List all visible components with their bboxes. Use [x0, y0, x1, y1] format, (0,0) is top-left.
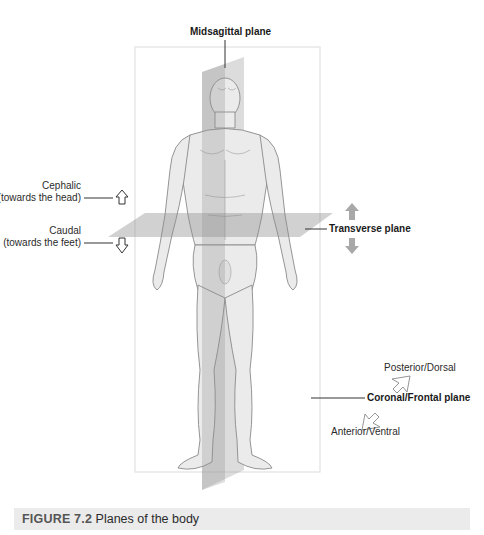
coronal-label: Coronal/Frontal plane — [367, 392, 470, 404]
cephalic-sublabel: (towards the head) — [0, 192, 81, 204]
figure-number: FIGURE 7.2 — [22, 512, 92, 526]
caudal-sublabel: (towards the feet) — [3, 237, 81, 249]
cephalic-label: Cephalic — [42, 180, 81, 192]
cephalic-up-arrow-icon — [116, 190, 128, 204]
transverse-plane — [108, 213, 333, 237]
midsagittal-label: Midsagittal plane — [190, 26, 271, 38]
anterior-label: Anterior/Ventral — [331, 426, 400, 438]
transverse-up-arrow-icon — [345, 203, 359, 220]
midsagittal-plane-overlay — [202, 64, 225, 490]
caudal-label: Caudal — [49, 225, 81, 237]
caudal-down-arrow-icon — [116, 238, 128, 253]
figure-caption: FIGURE 7.2 Planes of the body — [22, 512, 199, 526]
transverse-down-arrow-icon — [345, 238, 359, 254]
figure-title: Planes of the body — [96, 512, 200, 526]
posterior-label: Posterior/Dorsal — [384, 362, 456, 374]
posterior-arrow-icon — [392, 376, 410, 393]
transverse-label: Transverse plane — [329, 223, 411, 235]
planes-diagram — [0, 0, 484, 535]
